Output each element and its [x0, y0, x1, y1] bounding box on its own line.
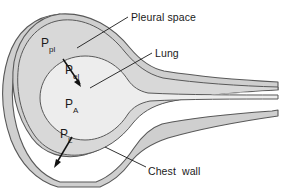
p-a-base: P: [65, 97, 73, 111]
label-elastic-recoil-pressure: Pel: [65, 64, 79, 76]
label-transpulmonary-pressure: PL: [60, 128, 72, 140]
p-pl-base: P: [41, 36, 49, 50]
p-el-subscript: el: [73, 72, 79, 81]
p-pl-subscript: pl: [49, 45, 55, 54]
label-alveolar-pressure: PA: [65, 98, 78, 110]
lung-chest-wall-diagram: Pleural space Lung Chest wall Ppl Pel PA…: [0, 0, 282, 196]
p-a-subscript: A: [73, 106, 78, 115]
p-l-subscript: L: [68, 136, 72, 145]
label-lung: Lung: [155, 48, 179, 59]
p-el-base: P: [65, 63, 73, 77]
anatomy-illustration: [0, 0, 282, 196]
label-chest-wall: Chest wall: [148, 166, 200, 177]
label-pleural-pressure: Ppl: [41, 37, 55, 49]
p-l-base: P: [60, 127, 68, 141]
label-pleural-space: Pleural space: [131, 12, 196, 23]
